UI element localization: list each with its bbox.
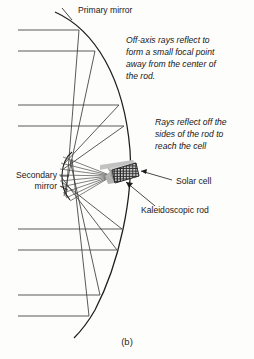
label-secondary-mirror-line1: Secondary bbox=[16, 170, 58, 180]
note-off-axis-rays: Off-axis rays reflect to form a small fo… bbox=[126, 35, 217, 81]
rays-secondary-to-rod bbox=[59, 157, 112, 201]
figure-caption: (b) bbox=[121, 336, 133, 347]
figure-solar-concentrator: Primary mirror Secondary mirror Solar ce… bbox=[0, 0, 254, 359]
leader-solar-cell bbox=[141, 169, 172, 180]
note1-line3: away from the center of bbox=[126, 59, 217, 69]
note1-line1: Off-axis rays reflect to bbox=[126, 35, 210, 45]
note2-line1: Rays reflect off the bbox=[155, 117, 227, 127]
note1-line2: form a small focal point bbox=[126, 47, 215, 57]
label-primary-mirror: Primary mirror bbox=[78, 5, 133, 15]
label-secondary-mirror-line2: mirror bbox=[35, 181, 58, 191]
label-solar-cell: Solar cell bbox=[176, 176, 211, 186]
label-kaleidoscopic-rod: Kaleidoscopic rod bbox=[141, 205, 209, 215]
note-rod-side-reflections: Rays reflect off the sides of the rod to… bbox=[155, 117, 227, 151]
leader-kaleidoscopic-rod bbox=[126, 182, 155, 206]
note2-line3: reach the cell bbox=[155, 141, 207, 151]
note2-line2: sides of the rod to bbox=[155, 129, 224, 139]
note1-line4: the rod. bbox=[126, 71, 155, 81]
